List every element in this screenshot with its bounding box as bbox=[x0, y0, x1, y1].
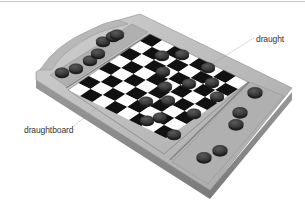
label-draughtboard: draughtboard bbox=[24, 125, 73, 135]
draught-piece bbox=[155, 51, 169, 62]
draught-piece bbox=[205, 78, 219, 89]
draught-piece bbox=[55, 68, 69, 79]
draught-piece bbox=[158, 82, 172, 93]
draught-piece bbox=[156, 67, 170, 78]
draught-piece bbox=[182, 79, 196, 90]
draught-piece bbox=[91, 49, 105, 60]
draught-piece bbox=[139, 97, 153, 108]
draught-piece bbox=[110, 30, 124, 41]
draught-piece bbox=[140, 116, 154, 127]
draught-piece bbox=[210, 92, 224, 103]
draught-piece bbox=[153, 113, 167, 124]
draught-piece bbox=[161, 96, 175, 107]
draught-piece bbox=[248, 87, 263, 98]
draught-piece bbox=[233, 107, 248, 118]
draught-piece bbox=[197, 152, 212, 163]
draught-piece bbox=[175, 50, 189, 61]
draught-piece bbox=[201, 63, 215, 74]
draught-piece bbox=[167, 130, 181, 141]
label-draught: draught bbox=[256, 34, 284, 44]
draught-piece bbox=[187, 109, 201, 120]
draught-piece bbox=[69, 64, 83, 75]
draught-piece bbox=[213, 145, 228, 156]
draught-piece bbox=[229, 119, 244, 130]
draughtboard-illustration bbox=[0, 0, 305, 212]
